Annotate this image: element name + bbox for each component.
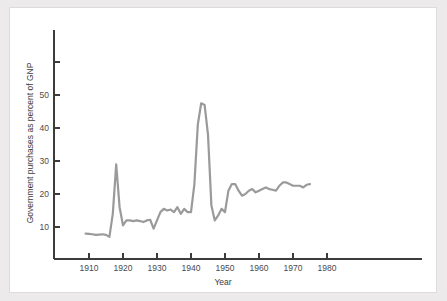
x-tick-label: 1970 bbox=[284, 263, 303, 273]
chart-axes bbox=[54, 30, 422, 259]
x-tick-label: 1910 bbox=[80, 263, 99, 273]
y-tick-label: 30 bbox=[40, 156, 50, 166]
chart-plot-area: 1020304050 19101920193019401950196019701… bbox=[10, 8, 436, 292]
x-tick-label: 1920 bbox=[114, 263, 133, 273]
data-line-government-purchases bbox=[86, 103, 310, 237]
x-tick-label: 1980 bbox=[318, 263, 337, 273]
x-axis-ticks: 19101920193019401950196019701980 bbox=[80, 253, 337, 273]
y-tick-label: 40 bbox=[40, 123, 50, 133]
x-tick-label: 1930 bbox=[148, 263, 167, 273]
y-axis-title: Government purchases as percent of GNP bbox=[25, 62, 35, 223]
y-tick-label: 10 bbox=[40, 222, 50, 232]
x-axis-title: Year bbox=[214, 277, 231, 287]
y-axis-ticks: 1020304050 bbox=[40, 62, 60, 232]
y-tick-label: 50 bbox=[40, 90, 50, 100]
chart-series-group bbox=[86, 103, 310, 237]
y-tick-label: 20 bbox=[40, 189, 50, 199]
x-tick-label: 1960 bbox=[250, 263, 269, 273]
x-tick-label: 1940 bbox=[182, 263, 201, 273]
chart-figure: 1020304050 19101920193019401950196019701… bbox=[9, 7, 437, 293]
x-tick-label: 1950 bbox=[216, 263, 235, 273]
